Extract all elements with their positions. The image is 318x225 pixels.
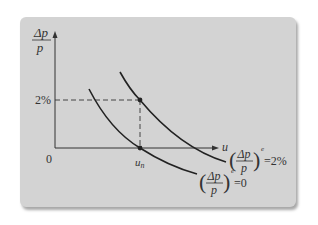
origin-label: 0 xyxy=(46,152,52,166)
svg-text:e: e xyxy=(231,167,234,175)
y-axis-arrow-icon xyxy=(53,31,58,38)
svg-text:(: ( xyxy=(199,169,206,194)
svg-text:): ) xyxy=(253,147,260,172)
x-axis-arrow-icon xyxy=(212,146,219,151)
y-axis-label-numerator: Δp xyxy=(33,25,49,40)
point-un-2pct xyxy=(138,98,143,103)
svg-text:e: e xyxy=(261,145,264,153)
svg-text:Δp: Δp xyxy=(236,147,250,161)
phillips-curve-chart: Δp p u 0 2% un ( Δp p ) e =2% ( Δp p ) e… xyxy=(0,0,318,225)
svg-text:): ) xyxy=(223,169,230,194)
svg-text:=2%: =2% xyxy=(264,154,287,168)
svg-text:=0: =0 xyxy=(234,176,247,190)
x-axis-label: u xyxy=(222,140,228,154)
y-tick-2pct: 2% xyxy=(35,93,51,107)
svg-text:Δp: Δp xyxy=(206,169,220,183)
svg-text:p: p xyxy=(210,183,217,197)
label-curve-expected-2pct: ( Δp p ) e =2% xyxy=(229,145,287,175)
y-axis-label-denominator: p xyxy=(36,40,44,55)
label-curve-expected-0: ( Δp p ) e =0 xyxy=(199,167,247,197)
svg-text:p: p xyxy=(240,161,247,175)
x-tick-un: un xyxy=(135,156,145,170)
point-un-0 xyxy=(138,146,143,151)
